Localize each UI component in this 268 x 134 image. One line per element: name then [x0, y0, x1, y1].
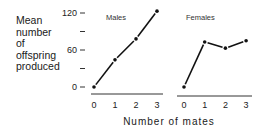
data-point: [203, 40, 207, 44]
panel-title-males: Males: [106, 13, 126, 22]
series-line: [117, 41, 134, 58]
x-tick-label: 2: [223, 100, 228, 110]
series-line: [228, 42, 243, 47]
data-point: [113, 58, 117, 62]
x-tick-label: 2: [133, 100, 138, 110]
panel-title-females: Females: [186, 13, 215, 22]
y-tick-label: 60: [67, 45, 77, 55]
series-line: [185, 45, 203, 85]
x-tick-label: 0: [181, 100, 186, 110]
chart-canvas: 060120Males0123Females0123: [0, 0, 268, 134]
x-tick-label: 1: [112, 100, 117, 110]
data-point: [92, 85, 96, 89]
y-tick-label: 120: [62, 8, 77, 18]
y-tick-label: 0: [72, 82, 77, 92]
x-tick-label: 3: [154, 100, 159, 110]
data-point: [244, 39, 248, 43]
data-point: [224, 46, 228, 50]
data-point: [182, 85, 186, 89]
x-axis-label: Number of mates: [0, 116, 268, 127]
data-point: [134, 37, 138, 41]
data-point: [155, 9, 159, 13]
x-tick-label: 0: [91, 100, 96, 110]
series-line: [96, 62, 113, 84]
series-line: [138, 14, 155, 37]
x-tick-label: 1: [202, 100, 207, 110]
x-tick-label: 3: [244, 100, 249, 110]
series-line: [208, 43, 223, 47]
